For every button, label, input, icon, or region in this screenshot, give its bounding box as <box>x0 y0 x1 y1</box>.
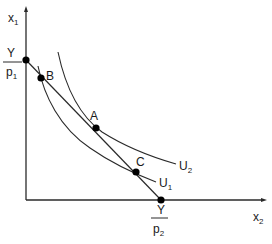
svg-text:Y: Y <box>157 203 165 217</box>
x-intercept-label: Y p2 <box>151 203 168 238</box>
point-label-b: B <box>46 69 54 83</box>
y-axis-arrow-icon <box>24 6 28 12</box>
point-b <box>37 74 44 81</box>
curve-label-u1: U1 <box>159 176 173 192</box>
point-y-over-p1 <box>22 56 29 63</box>
svg-text:Y: Y <box>7 46 15 60</box>
x-axis-label: x2 <box>253 210 264 226</box>
svg-text:p2: p2 <box>153 222 165 238</box>
point-a <box>92 124 99 131</box>
x-axis-arrow-icon <box>261 198 267 202</box>
point-label-c: C <box>136 155 145 169</box>
axes <box>26 9 264 200</box>
point-c <box>132 168 139 175</box>
indifference-curve-u2 <box>58 52 176 164</box>
utility-diagram: x1 x2 U2 U1 B A C Y p1 Y p2 <box>0 0 272 244</box>
point-label-a: A <box>90 109 98 123</box>
y-intercept-label: Y p1 <box>3 46 22 81</box>
curve-label-u2: U2 <box>179 159 193 175</box>
svg-text:p1: p1 <box>6 65 18 81</box>
y-axis-label: x1 <box>8 11 19 27</box>
